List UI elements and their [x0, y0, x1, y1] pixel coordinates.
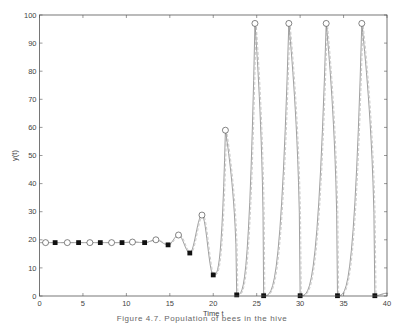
circle-marker: [199, 212, 205, 218]
y-tick-label: 80: [28, 67, 36, 76]
x-tick-label: 30: [296, 299, 304, 308]
x-tick-label: 35: [339, 299, 347, 308]
y-tick-label: 50: [28, 151, 36, 160]
square-marker: [120, 240, 125, 245]
circle-marker: [286, 20, 292, 26]
circle-marker: [252, 20, 258, 26]
y-tick-label: 100: [24, 11, 37, 20]
circle-marker: [64, 240, 70, 246]
circle-marker: [222, 127, 228, 133]
square-marker: [53, 240, 58, 245]
y-tick-label: 60: [28, 123, 36, 132]
y-axis-label: y(t): [10, 150, 19, 161]
square-marker: [187, 251, 192, 256]
x-tick-label: 20: [209, 299, 217, 308]
square-marker: [76, 240, 81, 245]
figure-caption: Figure 4.7. Population of bees in the hi…: [0, 314, 404, 328]
data-curve-dashed: [41, 23, 389, 295]
circle-marker: [153, 237, 159, 243]
plot-area: [40, 20, 389, 298]
square-marker: [166, 242, 171, 247]
circle-marker: [109, 240, 115, 246]
circle-marker: [359, 20, 365, 26]
axes: 05101520253035400102030405060708090100: [24, 11, 391, 308]
square-marker: [142, 240, 147, 245]
x-tick-label: 5: [81, 299, 85, 308]
y-tick-label: 0: [32, 292, 36, 301]
x-tick-label: 15: [166, 299, 174, 308]
y-tick-label: 90: [28, 39, 36, 48]
circle-marker: [176, 232, 182, 238]
x-tick-label: 0: [37, 299, 41, 308]
circle-marker: [87, 240, 93, 246]
circle-marker: [323, 20, 329, 26]
y-tick-label: 10: [28, 264, 36, 273]
square-marker: [98, 240, 103, 245]
data-curve: [40, 23, 388, 295]
y-tick-label: 70: [28, 95, 36, 104]
x-tick-label: 40: [383, 299, 391, 308]
chart-figure: 05101520253035400102030405060708090100 T…: [0, 0, 404, 328]
circle-marker: [129, 239, 135, 245]
y-tick-label: 40: [28, 179, 36, 188]
y-tick-label: 20: [28, 235, 36, 244]
circle-marker: [43, 240, 49, 246]
x-tick-label: 25: [253, 299, 261, 308]
square-marker: [234, 292, 239, 297]
y-tick-label: 30: [28, 207, 36, 216]
square-marker: [211, 273, 216, 278]
x-tick-label: 10: [122, 299, 130, 308]
